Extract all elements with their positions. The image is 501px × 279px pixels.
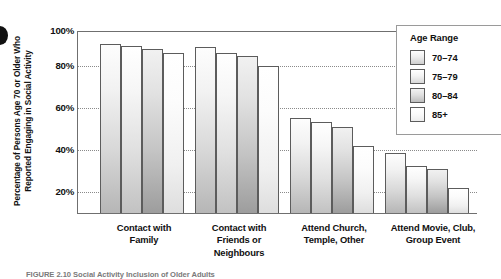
legend-item-label: 85+: [432, 109, 448, 120]
legend: Age Range 70–74 75–79 80–84 85+: [396, 25, 501, 135]
bar-contact-friends-85-plus[interactable]: [258, 66, 279, 213]
figure-caption: FIGURE 2.10 Social Activity Inclusion of…: [26, 270, 215, 279]
x-category-line: Attend Movie, Club,: [371, 222, 495, 234]
bar-contact-friends-70-74[interactable]: [195, 47, 216, 213]
legend-item-75-79[interactable]: 75–79: [410, 67, 501, 86]
bar-contact-friends-80-84[interactable]: [237, 56, 258, 213]
bar-group-contact-with-friends-or-neighbours: [195, 31, 279, 213]
bar-group-contact-with-family: [100, 31, 184, 213]
bar-attend-church-80-84[interactable]: [332, 127, 353, 213]
x-category-line: Group Event: [371, 234, 495, 246]
bar-contact-family-85-plus[interactable]: [163, 53, 184, 213]
legend-swatch-icon: [410, 88, 425, 103]
y-tick-label-20: 20%: [14, 186, 74, 197]
legend-swatch-icon: [410, 69, 425, 84]
bar-attend-movie-75-79[interactable]: [406, 166, 427, 213]
bar-contact-family-75-79[interactable]: [121, 46, 142, 213]
bar-group-attend-church-temple-other: [290, 31, 374, 213]
bar-attend-movie-80-84[interactable]: [427, 169, 448, 213]
legend-title: Age Range: [410, 32, 501, 43]
bar-contact-family-80-84[interactable]: [142, 49, 163, 213]
y-tick-label-60: 60%: [14, 102, 74, 113]
legend-swatch-icon: [410, 50, 425, 65]
bar-attend-church-85-plus[interactable]: [353, 146, 374, 213]
legend-swatch-icon: [410, 107, 425, 122]
y-tick-label-80: 80%: [14, 60, 74, 71]
bar-attend-church-70-74[interactable]: [290, 118, 311, 213]
legend-item-70-74[interactable]: 70–74: [410, 48, 501, 67]
bar-attend-movie-70-74[interactable]: [385, 153, 406, 213]
bar-contact-friends-75-79[interactable]: [216, 53, 237, 213]
bar-attend-movie-85-plus[interactable]: [448, 188, 469, 213]
x-category-line: Neighbours: [177, 247, 301, 259]
y-axis-title: Percentage of Persons Age 70 or Older Wh…: [12, 6, 34, 236]
legend-item-label: 75–79: [432, 71, 458, 82]
legend-item-label: 80–84: [432, 90, 458, 101]
legend-item-80-84[interactable]: 80–84: [410, 86, 501, 105]
bar-attend-church-75-79[interactable]: [311, 122, 332, 213]
y-tick-label-100: 100%: [14, 25, 74, 36]
x-category-label-attend-movie-club-group-event: Attend Movie, Club, Group Event: [371, 222, 495, 247]
y-tick-label-40: 40%: [14, 144, 74, 155]
legend-item-85-plus[interactable]: 85+: [410, 105, 501, 124]
y-axis-title-line-2: Reported Engaging in Social Activity: [23, 6, 34, 236]
legend-item-label: 70–74: [432, 52, 458, 63]
bar-contact-family-70-74[interactable]: [100, 44, 121, 213]
